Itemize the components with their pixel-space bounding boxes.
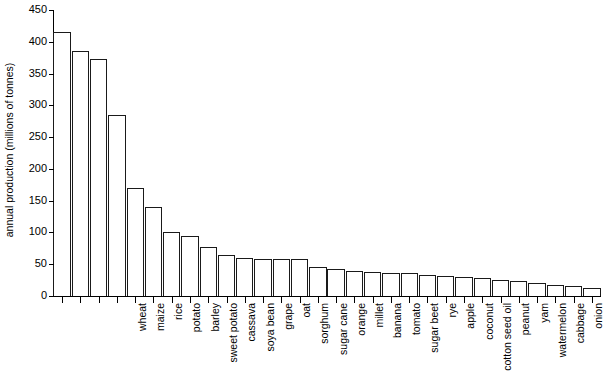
- bar: [291, 259, 308, 296]
- bar: [218, 255, 235, 296]
- x-axis-tick-label: cotton seed oil: [501, 303, 514, 383]
- x-axis-tick-label: soya bean: [264, 303, 277, 383]
- x-axis-tick-label: peanut: [519, 303, 532, 383]
- bar: [437, 276, 454, 296]
- bar: [455, 277, 472, 296]
- bar: [419, 275, 436, 296]
- y-axis-tick-mark: [49, 105, 54, 106]
- bar: [547, 285, 564, 296]
- x-axis-tick-label: yam: [538, 303, 551, 383]
- y-axis-tick-label: 50: [19, 258, 47, 269]
- y-axis-tick-label: 250: [19, 131, 47, 142]
- bar: [474, 278, 491, 296]
- x-axis-tick-label: sugar beet: [428, 303, 441, 383]
- x-axis-tick-label: cassava: [245, 303, 258, 383]
- y-axis-title-text: annual production (millions of tonnes): [3, 63, 15, 238]
- y-axis-tick-mark: [49, 232, 54, 233]
- bar: [346, 271, 363, 296]
- y-axis-tick-mark: [49, 169, 54, 170]
- y-axis-title: annual production (millions of tonnes): [0, 0, 18, 300]
- x-axis-tick-label: sorghum: [318, 303, 331, 383]
- bar: [401, 273, 418, 296]
- x-axis-tick-label: banana: [391, 303, 404, 383]
- y-axis-tick-label: 400: [19, 36, 47, 47]
- bar: [382, 273, 399, 297]
- bar: [273, 259, 290, 296]
- bar: [145, 207, 162, 296]
- y-axis-tick-label: 0: [19, 290, 47, 301]
- y-axis-tick-label: 450: [19, 4, 47, 15]
- bar: [90, 59, 107, 296]
- x-axis-tick-label: potato: [190, 303, 203, 383]
- x-axis-tick-labels: wheatmaizericepotatobarleysweet potatoca…: [53, 303, 601, 383]
- bar: [72, 51, 89, 296]
- bar: [492, 280, 509, 296]
- bar: [200, 247, 217, 296]
- x-axis-tick-label: sugar cane: [337, 303, 350, 383]
- y-axis-tick-label: 100: [19, 226, 47, 237]
- bar-chart: annual production (millions of tonnes) 0…: [0, 0, 606, 383]
- bar: [236, 258, 253, 296]
- y-axis-tick-mark: [49, 137, 54, 138]
- bar: [327, 269, 344, 296]
- x-axis-tick-label: sweet potato: [227, 303, 240, 383]
- x-axis-tick-label: wheat: [136, 303, 149, 383]
- bar: [181, 236, 198, 296]
- bar: [108, 115, 125, 296]
- x-axis-tick-label: cabbage: [574, 303, 587, 383]
- y-axis-tick-label: 200: [19, 163, 47, 174]
- y-axis-tick-mark: [49, 10, 54, 11]
- x-axis-tick-label: rice: [172, 303, 185, 383]
- x-axis-tick-label: apple: [464, 303, 477, 383]
- x-axis-tick-label: maize: [154, 303, 167, 383]
- y-axis-tick-mark: [49, 74, 54, 75]
- bar: [364, 272, 381, 296]
- bar: [528, 283, 545, 296]
- y-axis-tick-label: 300: [19, 99, 47, 110]
- x-axis-tick-label: watermelon: [556, 303, 569, 383]
- x-axis-tick-label: rye: [446, 303, 459, 383]
- bars-layer: [53, 10, 601, 297]
- plot-area: [53, 10, 601, 297]
- x-axis-tick-label: oat: [300, 303, 313, 383]
- x-axis-tick-label: orange: [355, 303, 368, 383]
- y-axis-tick-label: 350: [19, 68, 47, 79]
- x-axis-tick-label: grape: [282, 303, 295, 383]
- bar: [254, 259, 271, 296]
- x-axis-tick-label: barley: [209, 303, 222, 383]
- y-axis-tick-label: 150: [19, 195, 47, 206]
- y-axis-tick-labels: 050100150200250300350400450: [17, 0, 47, 383]
- x-axis-tick-label: millet: [373, 303, 386, 383]
- x-axis-tick-label: tomato: [410, 303, 423, 383]
- x-axis-tick-label: onion: [592, 303, 605, 383]
- bar: [583, 288, 600, 296]
- bar: [163, 232, 180, 296]
- y-axis-tick-mark: [49, 201, 54, 202]
- bar: [127, 188, 144, 296]
- bar: [565, 286, 582, 296]
- y-axis-tick-mark: [49, 264, 54, 265]
- bar: [309, 267, 326, 296]
- bar: [510, 281, 527, 296]
- bar: [53, 32, 70, 296]
- y-axis-tick-mark: [49, 42, 54, 43]
- x-axis-tick-label: coconut: [483, 303, 496, 383]
